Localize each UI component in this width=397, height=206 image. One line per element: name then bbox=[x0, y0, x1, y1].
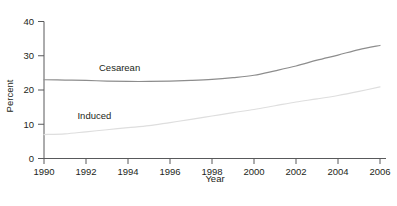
y-tick-label: 20 bbox=[23, 84, 34, 95]
x-tick-label: 2000 bbox=[243, 166, 264, 177]
chart-container: 010203040 199019921994199619982000200220… bbox=[0, 0, 397, 206]
x-tick-label: 2002 bbox=[285, 166, 306, 177]
y-axis-title: Percent bbox=[4, 79, 15, 112]
x-tick-label: 2004 bbox=[327, 166, 348, 177]
x-tick-label: 1994 bbox=[117, 166, 138, 177]
x-tick-label: 1990 bbox=[33, 166, 54, 177]
line-chart: 010203040 199019921994199619982000200220… bbox=[0, 0, 397, 206]
series-label-cesarean: Cesarean bbox=[99, 62, 140, 73]
y-tick-label: 30 bbox=[23, 50, 34, 61]
x-tick-label: 1996 bbox=[159, 166, 180, 177]
series-label-induced: Induced bbox=[77, 110, 111, 121]
x-tick-label: 1992 bbox=[75, 166, 96, 177]
y-tick-label: 10 bbox=[23, 119, 34, 130]
x-axis-title: Year bbox=[205, 173, 224, 184]
x-tick-label: 2006 bbox=[369, 166, 390, 177]
y-tick-label: 40 bbox=[23, 16, 34, 27]
y-tick-label: 0 bbox=[29, 153, 34, 164]
